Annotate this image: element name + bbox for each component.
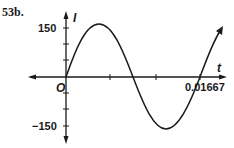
y-axis-title: I: [73, 11, 77, 25]
x-axis-title: t: [217, 61, 222, 75]
arrow-right-icon: [219, 75, 227, 80]
curve-arrow-icon: [216, 26, 223, 35]
y-label-neg150: −150: [32, 120, 57, 132]
sine-chart: 53b. 150 −150 0.01667 O t I: [0, 0, 234, 148]
x-axis: [28, 74, 227, 80]
origin-label: O: [56, 81, 66, 95]
arrow-down-icon: [64, 136, 69, 144]
arrow-up-icon: [64, 11, 69, 19]
x-label-period: 0.01667: [185, 81, 225, 93]
problem-label: 53b.: [2, 5, 24, 19]
y-label-150: 150: [38, 22, 56, 34]
arrow-left-icon: [28, 75, 36, 80]
